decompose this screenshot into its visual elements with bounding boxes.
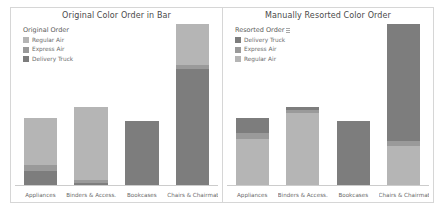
legend-label-express-air: Express Air: [32, 46, 64, 53]
category-label: Chairs & Chairmats: [167, 192, 218, 198]
legend-item-express-air[interactable]: Express Air: [235, 46, 291, 53]
legend-label-express-air: Express Air: [244, 46, 276, 53]
bar-stack[interactable]: [24, 118, 57, 186]
bar-segment[interactable]: [125, 121, 158, 186]
bar-stack[interactable]: [74, 107, 107, 186]
category-label: Appliances: [227, 192, 278, 198]
category-label: Bookcases: [117, 192, 168, 198]
bar-segment[interactable]: [74, 107, 107, 180]
bar-segment[interactable]: [286, 113, 319, 186]
bar-segment[interactable]: [387, 24, 420, 141]
category-labels-resorted: AppliancesBinders & Access.BookcasesChai…: [227, 186, 429, 202]
chart-panel-original: Original Color Order in Bar Original Ord…: [10, 7, 222, 203]
legend-swatch-delivery-truck: [235, 37, 241, 43]
legend-title-resorted: Resorted Order: [235, 26, 291, 34]
bar-segment[interactable]: [387, 146, 420, 187]
legend-item-regular-air[interactable]: Regular Air: [235, 56, 291, 63]
legend-label-regular-air: Regular Air: [244, 56, 276, 63]
legend-swatch-regular-air: [23, 37, 29, 43]
bar-segment[interactable]: [337, 121, 370, 186]
category-label: Chairs & Chairmats: [379, 192, 430, 198]
bar-segment[interactable]: [24, 118, 57, 165]
panel-title-resorted: Manually Resorted Color Order: [223, 8, 433, 22]
legend-swatch-delivery-truck: [23, 56, 29, 62]
legend-item-regular-air[interactable]: Regular Air: [23, 37, 73, 44]
legend-label-delivery-truck: Delivery Truck: [32, 56, 73, 63]
legend-swatch-express-air: [235, 47, 241, 53]
legend-item-delivery-truck[interactable]: Delivery Truck: [23, 56, 73, 63]
bar-segment[interactable]: [24, 171, 57, 186]
bar-segment[interactable]: [176, 69, 209, 186]
legend-label-regular-air: Regular Air: [32, 37, 64, 44]
panel-title-original: Original Color Order in Bar: [11, 8, 222, 22]
category-label: Appliances: [15, 192, 66, 198]
bar-segment[interactable]: [236, 139, 269, 186]
bar-stack[interactable]: [125, 121, 158, 186]
bar-segment[interactable]: [236, 118, 269, 133]
category-label: Bookcases: [328, 192, 379, 198]
chart-panels: Original Color Order in Bar Original Ord…: [10, 7, 434, 203]
legend-item-express-air[interactable]: Express Air: [23, 46, 73, 53]
bar-segment[interactable]: [176, 24, 209, 65]
category-labels-original: AppliancesBinders & Access.BookcasesChai…: [15, 186, 218, 202]
dual-bar-chart-figure: Original Color Order in Bar Original Ord…: [0, 0, 444, 218]
legend-item-delivery-truck[interactable]: Delivery Truck: [235, 37, 291, 44]
bar-stack[interactable]: [387, 24, 420, 186]
category-label: Binders & Access.: [66, 192, 117, 198]
category-label: Binders & Access.: [278, 192, 329, 198]
legend-title-text-original: Original Order: [23, 26, 69, 34]
bar-stack[interactable]: [337, 121, 370, 186]
legend-resorted: Resorted Order Delivery Truck Express Ai…: [235, 26, 291, 65]
legend-title-text-resorted: Resorted Order: [235, 26, 284, 34]
bar-stack[interactable]: [176, 24, 209, 186]
plot-area-original: Original Order Regular Air Express Air D…: [15, 22, 218, 202]
legend-swatch-express-air: [23, 47, 29, 53]
legend-label-delivery-truck: Delivery Truck: [244, 37, 285, 44]
sort-icon[interactable]: [286, 27, 291, 33]
legend-original: Original Order Regular Air Express Air D…: [23, 26, 73, 65]
legend-swatch-regular-air: [235, 56, 241, 62]
bar-stack[interactable]: [236, 118, 269, 186]
bar-stack[interactable]: [286, 107, 319, 186]
legend-title-original: Original Order: [23, 26, 73, 34]
plot-area-resorted: Resorted Order Delivery Truck Express Ai…: [227, 22, 429, 202]
chart-panel-resorted: Manually Resorted Color Order Resorted O…: [222, 7, 434, 203]
